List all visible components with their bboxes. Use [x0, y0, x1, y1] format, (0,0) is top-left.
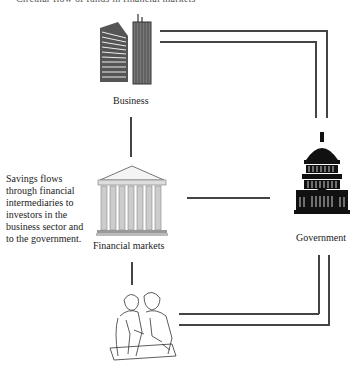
people-reviewing-plans-icon	[104, 286, 180, 364]
connector-financial-government	[187, 197, 270, 199]
connector-financial-households	[131, 262, 133, 285]
flow-line-outer-top-v	[326, 30, 328, 118]
connector-business-financial	[130, 117, 132, 157]
flow-line-inner-top	[160, 41, 316, 43]
flow-line-outer-top	[160, 30, 327, 32]
savings-flow-annotation: Savings flows through financial intermed…	[6, 173, 90, 245]
business-label: Business	[113, 95, 149, 107]
capitol-building-icon	[294, 130, 350, 222]
flow-line-outer-bottom	[179, 324, 330, 326]
truncated-caption: Circular flow of funds in financial mark…	[16, 0, 196, 4]
flow-line-outer-bottom-v	[328, 255, 330, 325]
government-label: Government	[296, 232, 346, 244]
office-buildings-icon	[98, 14, 168, 84]
financial-markets-label: Financial markets	[93, 240, 164, 252]
bank-columns-icon	[96, 164, 168, 238]
flow-line-inner-bottom	[179, 313, 319, 315]
flow-line-inner-bottom-v	[318, 255, 320, 314]
flow-line-inner-top-v	[315, 41, 317, 118]
